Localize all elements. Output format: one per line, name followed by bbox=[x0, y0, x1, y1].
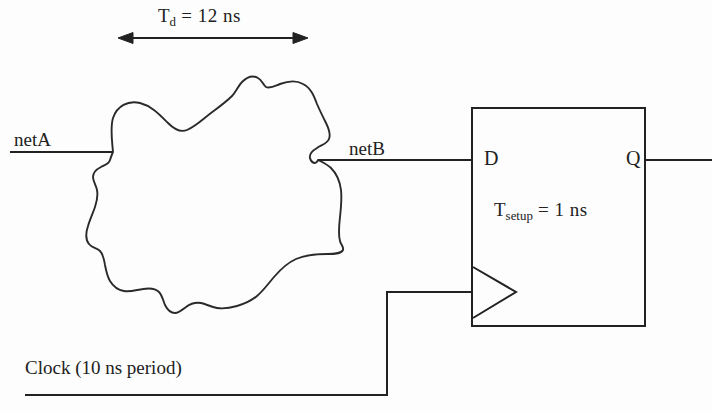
delay-span-arrow bbox=[118, 33, 308, 44]
delay-symbol: T bbox=[158, 5, 170, 26]
figure-canvas bbox=[0, 0, 712, 413]
wire-clock bbox=[25, 292, 473, 395]
netb-label: netB bbox=[349, 139, 385, 158]
circuit-timing-figure: Td = 12 ns netA netB D Q Tsetup = 1 ns C… bbox=[0, 0, 712, 413]
delay-label: Td = 12 ns bbox=[158, 6, 241, 25]
setup-time-label: Tsetup = 1 ns bbox=[494, 200, 588, 219]
setup-value: = 1 ns bbox=[533, 199, 588, 220]
clock-triangle-icon bbox=[473, 267, 516, 318]
delay-subscript: d bbox=[170, 14, 176, 29]
delay-value: = 12 ns bbox=[176, 5, 241, 26]
setup-subscript: setup bbox=[506, 208, 533, 223]
neta-label: netA bbox=[14, 130, 51, 149]
setup-symbol: T bbox=[494, 199, 506, 220]
flipflop-q-pin-label: Q bbox=[626, 148, 640, 168]
clock-label: Clock (10 ns period) bbox=[25, 358, 182, 377]
flipflop-d-pin-label: D bbox=[484, 148, 498, 168]
combinational-logic-cloud bbox=[86, 77, 343, 313]
